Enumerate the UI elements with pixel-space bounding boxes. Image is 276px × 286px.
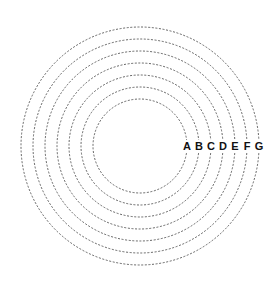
ring-label-d: D xyxy=(219,140,227,152)
ring-b xyxy=(81,87,199,205)
ring-label-e: E xyxy=(231,140,238,152)
ring-a xyxy=(93,99,187,193)
concentric-circles-diagram: ABCDEFG xyxy=(0,0,276,286)
ring-label-f: F xyxy=(244,140,251,152)
labels-group: ABCDEFG xyxy=(182,140,264,152)
ring-label-a: A xyxy=(183,140,191,152)
ring-label-g: G xyxy=(255,140,264,152)
ring-label-b: B xyxy=(195,140,203,152)
ring-label-c: C xyxy=(207,140,215,152)
